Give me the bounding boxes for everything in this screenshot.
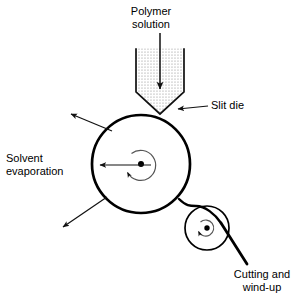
slit-die-pointer-arrow <box>178 106 208 109</box>
slit-die-label: Slit die <box>211 99 244 112</box>
figure-canvas: Polymer solution Slit die Solvent evapor… <box>0 0 299 301</box>
take-up-roller <box>185 206 229 250</box>
evaporation-ray-lower-left <box>63 197 107 227</box>
casting-drum-hub <box>138 161 144 167</box>
casting-drum <box>92 115 190 213</box>
evaporation-ray-upper-left <box>71 114 112 131</box>
take-up-roller-hub <box>204 225 209 230</box>
cast-film-web-exit <box>221 223 247 264</box>
solvent-evaporation-label: Solvent evaporation <box>6 152 96 178</box>
cutting-and-windup-label: Cutting and wind-up <box>226 268 298 294</box>
process-flow-diagram <box>0 0 299 301</box>
polymer-solution-label: Polymer solution <box>116 5 186 31</box>
